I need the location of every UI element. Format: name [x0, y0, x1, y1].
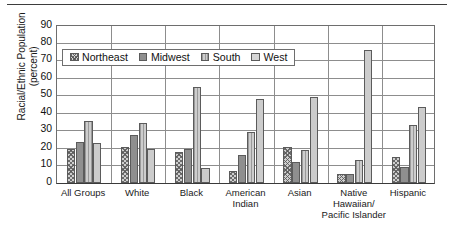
x-axis-label-line: Hispanic [373, 187, 443, 198]
bar-west [201, 168, 209, 183]
bar-west [364, 50, 372, 183]
bar-midwest [184, 149, 192, 182]
bar-south [193, 87, 201, 183]
y-axis-tick-label: 40 [22, 107, 52, 117]
legend-label: West [263, 52, 287, 63]
bar-south [84, 121, 92, 183]
y-axis-tick-label: 80 [22, 37, 52, 47]
chart-legend: NortheastMidwestSouthWest [62, 49, 295, 66]
legend-item-northeast[interactable]: Northeast [70, 52, 128, 63]
legend-swatch-west-icon [251, 53, 260, 62]
legend-item-west[interactable]: West [251, 52, 287, 63]
bar-west [147, 149, 155, 182]
bar-south [355, 160, 363, 183]
y-axis-tick-label: 10 [22, 159, 52, 169]
bar-west [418, 107, 426, 183]
bar-south [409, 125, 417, 183]
bar-northeast [121, 147, 129, 183]
legend-label: South [213, 52, 241, 63]
legend-swatch-midwest-icon [139, 53, 148, 62]
bar-northeast [392, 157, 400, 182]
bar-midwest [400, 167, 408, 183]
chart-figure: Racial/Ethnic Population (percent) 90807… [0, 0, 454, 233]
bar-group [382, 26, 436, 183]
bar-northeast [67, 149, 75, 182]
y-axis-tick-label: 0 [22, 177, 52, 187]
bar-northeast [175, 152, 183, 183]
y-axis-tick-label: 90 [22, 20, 52, 30]
legend-item-midwest[interactable]: Midwest [139, 52, 190, 63]
x-axis-category-labels: All GroupsWhiteBlackAmericanIndianAsianN… [56, 187, 435, 231]
bar-midwest [130, 135, 138, 182]
y-axis-tick-labels: 9080706050403020100 [14, 25, 52, 184]
x-axis-label-line: Hawaiian/ [319, 198, 389, 209]
bar-northeast [337, 174, 345, 183]
bar-midwest [292, 162, 300, 183]
y-axis-tick-label: 30 [22, 124, 52, 134]
bar-west [93, 143, 101, 182]
bar-south [301, 150, 309, 182]
bar-northeast [229, 171, 237, 182]
bar-midwest [238, 155, 246, 183]
bar-south [139, 123, 147, 182]
x-axis-label-line: Indian [210, 198, 280, 209]
legend-swatch-south-icon [201, 53, 210, 62]
legend-item-south[interactable]: South [201, 52, 241, 63]
y-axis-tick-label: 70 [22, 54, 52, 64]
bar-west [256, 99, 264, 183]
legend-label: Midwest [151, 52, 190, 63]
y-axis-tick-label: 20 [22, 142, 52, 152]
bar-south [247, 132, 255, 183]
x-axis-label-line: Pacific Islander [319, 209, 389, 220]
y-axis-tick-label: 60 [22, 72, 52, 82]
top-divider-rule [7, 4, 447, 5]
legend-swatch-northeast-icon [70, 53, 79, 62]
bar-west [310, 97, 318, 182]
bar-midwest [76, 142, 84, 182]
bar-midwest [346, 174, 354, 183]
x-axis-label: Hispanic [373, 187, 443, 198]
bar-group [328, 26, 382, 183]
bar-northeast [283, 147, 291, 183]
y-axis-tick-label: 50 [22, 89, 52, 99]
legend-label: Northeast [82, 52, 128, 63]
